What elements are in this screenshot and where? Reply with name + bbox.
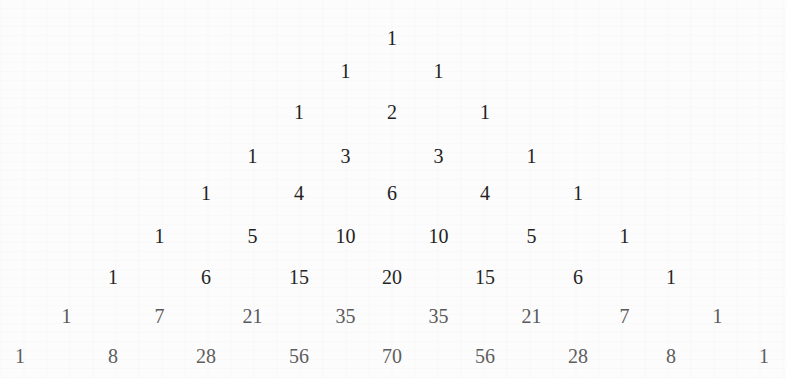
triangle-entry: 21 <box>243 306 263 326</box>
pascal-triangle: 1111211331146411510105116152015611721353… <box>0 0 786 378</box>
triangle-entry: 1 <box>759 346 769 366</box>
triangle-entry: 1 <box>155 226 165 246</box>
triangle-entry: 4 <box>480 183 490 203</box>
triangle-entry: 1 <box>480 102 490 122</box>
triangle-entry: 1 <box>527 146 537 166</box>
triangle-entry: 56 <box>289 346 309 366</box>
triangle-entry: 10 <box>336 226 356 246</box>
triangle-entry: 5 <box>527 226 537 246</box>
triangle-entry: 20 <box>382 267 402 287</box>
triangle-entry: 1 <box>387 28 397 48</box>
triangle-entry: 3 <box>434 146 444 166</box>
triangle-entry: 35 <box>429 306 449 326</box>
triangle-entry: 35 <box>336 306 356 326</box>
triangle-entry: 28 <box>196 346 216 366</box>
triangle-entry: 1 <box>62 306 72 326</box>
triangle-entry: 1 <box>620 226 630 246</box>
triangle-entry: 7 <box>155 306 165 326</box>
triangle-entry: 4 <box>294 183 304 203</box>
triangle-entry: 1 <box>248 146 258 166</box>
triangle-entry: 10 <box>429 226 449 246</box>
triangle-entry: 1 <box>294 102 304 122</box>
triangle-entry: 1 <box>434 61 444 81</box>
triangle-entry: 15 <box>289 267 309 287</box>
triangle-entry: 1 <box>201 183 211 203</box>
triangle-entry: 5 <box>248 226 258 246</box>
triangle-entry: 6 <box>387 183 397 203</box>
triangle-entry: 3 <box>341 146 351 166</box>
triangle-entry: 70 <box>382 346 402 366</box>
triangle-entry: 8 <box>108 346 118 366</box>
triangle-entry: 2 <box>387 102 397 122</box>
triangle-entry: 28 <box>568 346 588 366</box>
triangle-entry: 1 <box>15 346 25 366</box>
triangle-entry: 8 <box>666 346 676 366</box>
triangle-entry: 6 <box>201 267 211 287</box>
triangle-entry: 1 <box>666 267 676 287</box>
triangle-entry: 1 <box>108 267 118 287</box>
triangle-entry: 15 <box>475 267 495 287</box>
triangle-entry: 56 <box>475 346 495 366</box>
triangle-entry: 21 <box>522 306 542 326</box>
triangle-entry: 1 <box>341 61 351 81</box>
triangle-entry: 6 <box>573 267 583 287</box>
triangle-entry: 7 <box>620 306 630 326</box>
triangle-entry: 1 <box>573 183 583 203</box>
triangle-entry: 1 <box>713 306 723 326</box>
